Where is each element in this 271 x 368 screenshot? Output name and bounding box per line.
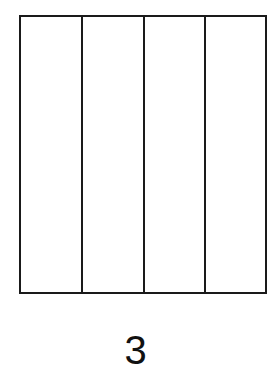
divider-line [204,17,206,292]
divider-line [81,17,83,292]
divided-rectangle [19,15,267,294]
figure-label: 3 [0,330,271,368]
divider-line [143,17,145,292]
